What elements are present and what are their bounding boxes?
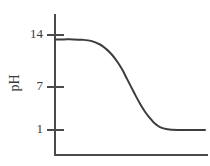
chart-canvas: 14 7 1 pH (0, 0, 210, 166)
chart-background (0, 0, 210, 166)
y-tick-label-1: 1 (37, 121, 44, 136)
y-tick-label-14: 14 (30, 26, 44, 41)
y-tick-label-7: 7 (37, 78, 44, 93)
y-axis-title: pH (7, 74, 22, 91)
ph-titration-chart: 14 7 1 pH (0, 0, 210, 166)
